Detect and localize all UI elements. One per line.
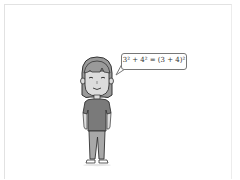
character-illustration [78,55,116,167]
speech-bubble: 3² + 4² = (3 + 4)² [121,53,187,70]
speech-bubble-text: 3² + 4² = (3 + 4)² [122,56,186,64]
image-frame [4,4,232,179]
